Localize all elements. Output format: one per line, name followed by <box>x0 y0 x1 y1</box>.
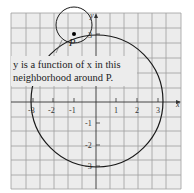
caption-line-2: neighborhood around P. <box>13 72 113 83</box>
caption-line-1: y is a function of x in this <box>13 59 121 70</box>
point-p-label: P <box>68 37 76 48</box>
x-tick-label: 1 <box>114 106 118 115</box>
y-tick-label: -2 <box>85 141 92 150</box>
y-tick-label: -3 <box>85 162 92 171</box>
figure: y is a function of x in this neighborhoo… <box>0 0 194 193</box>
x-tick-label: 3 <box>156 106 160 115</box>
point-p-marker <box>72 32 76 36</box>
x-tick-label: 2 <box>135 106 139 115</box>
x-tick-label: -3 <box>28 106 35 115</box>
x-axis-label: x <box>175 100 180 109</box>
y-tick-label: -1 <box>85 119 92 128</box>
x-tick-label: -1 <box>69 106 76 115</box>
x-tick-label: -2 <box>48 106 55 115</box>
y-tick-label: 3 <box>88 31 92 40</box>
y-axis-label: y <box>89 11 94 20</box>
